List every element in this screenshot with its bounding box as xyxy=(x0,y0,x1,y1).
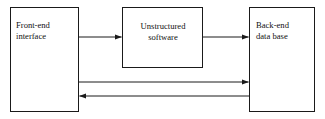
node-label-line-2: software xyxy=(148,32,178,42)
node-back-end-data-base: Back-end data base xyxy=(250,8,315,112)
node-label-line-1: Unstructured xyxy=(141,21,187,31)
node-label-line-1: Back-end xyxy=(256,20,290,30)
node-label-line-2: data base xyxy=(256,31,288,41)
flow-diagram: Front-end interface Unstructured softwar… xyxy=(0,0,325,119)
node-unstructured-software: Unstructured software xyxy=(123,8,203,68)
node-label-line-2: interface xyxy=(16,31,46,41)
diagram-canvas: Front-end interface Unstructured softwar… xyxy=(0,0,325,119)
node-label-line-1: Front-end xyxy=(16,20,51,30)
node-front-end-interface: Front-end interface xyxy=(11,8,79,112)
